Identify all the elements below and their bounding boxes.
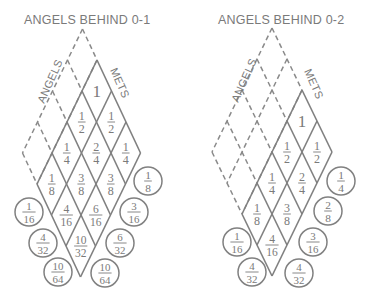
numerator: 1 [234,230,239,242]
mets-axis-label: METS [302,67,326,101]
lattice-cell: 18 [253,201,261,228]
numerator: 10 [75,234,87,246]
denominator: 4 [299,183,305,197]
denominator: 64 [53,273,64,285]
numerator: 4 [40,231,46,243]
outcome-circle: 116 [223,228,251,256]
lattice-line [83,29,98,60]
lattice-line [38,122,53,153]
denominator: 8 [78,184,84,198]
denominator: 8 [145,182,151,194]
denominator: 4 [123,153,129,167]
denominator: 4 [93,153,99,167]
numerator: 3 [78,171,84,185]
lattice-line [23,153,38,184]
denominator: 32 [38,244,49,256]
lattice-line [272,28,302,90]
numerator: 2 [93,140,99,154]
numerator: 3 [108,171,114,185]
numerator: 2 [299,170,305,184]
outcome-circle: 316 [299,228,327,256]
outcome-circle: 632 [106,229,134,257]
outcome-circle: 18 [134,167,162,195]
diagram-title: ANGELS BEHIND 0-1 [24,13,150,27]
outcome-circle: 1064 [44,258,72,286]
lattice-cell: 616 [89,203,102,228]
angels-axis-label: ANGELS [229,57,259,104]
denominator: 2 [108,122,114,136]
diagram-title: ANGELS BEHIND 0-2 [218,13,344,27]
numerator: 1 [64,140,70,154]
diagram-left: ANGELS BEHIND 0-1ANGELSMETS1121214241418… [15,13,162,287]
probability-diagrams: ANGELS BEHIND 0-1ANGELSMETS1121214241418… [0,0,371,304]
denominator: 32 [75,247,87,259]
lattice-cell: 38 [107,171,115,198]
numerator: 10 [53,260,64,272]
lattice-cell: 14 [268,170,276,197]
denominator: 2 [284,152,290,166]
numerator: 1 [269,170,275,184]
numerator: 1 [284,139,290,153]
numerator: 1 [108,109,114,123]
angels-axis-label: ANGELS [35,58,65,105]
denominator: 16 [308,243,319,255]
lattice-cell: 1 [298,112,307,131]
outcome-circle: 316 [120,198,148,226]
numerator: 4 [269,233,275,245]
denominator: 4 [64,153,70,167]
denominator: 8 [49,184,55,198]
lattice-cell: 1032 [74,234,87,259]
numerator: 1 [145,169,151,181]
lattice-cell: 12 [78,109,86,136]
denominator: 16 [232,243,243,255]
numerator: 6 [93,203,99,215]
numerator: 1 [123,140,129,154]
numerator: 1 [314,139,320,153]
numerator: 1 [26,200,31,212]
denominator: 4 [338,182,344,194]
denominator: 32 [115,244,126,256]
numerator: 2 [325,199,331,211]
diagram-right: ANGELS BEHIND 0-2ANGELSMETS1121214241838… [212,13,355,287]
denominator: 32 [247,273,258,285]
denominator: 8 [284,214,290,228]
denominator: 64 [100,274,111,286]
lattice-cell: 24 [298,170,306,197]
numerator: 4 [296,261,302,273]
numerator: 10 [100,261,111,273]
numerator: 3 [310,230,316,242]
outcome-circle: 28 [314,197,342,225]
cell-value: 1 [93,82,102,101]
numerator: 3 [131,200,137,212]
lattice-cell: 416 [60,203,73,228]
outcome-circle: 432 [29,229,57,257]
denominator: 16 [61,216,73,228]
lattice-cell: 12 [313,139,321,166]
lattice-cell: 1 [93,82,102,101]
denominator: 16 [24,213,35,225]
denominator: 8 [254,214,260,228]
outcome-circle: 1064 [91,259,119,287]
numerator: 6 [117,231,123,243]
outcome-circle: 116 [15,198,43,226]
lattice-cell: 12 [107,109,115,136]
outcome-circle: 432 [285,259,313,287]
numerator: 1 [49,171,55,185]
lattice-line [53,91,68,122]
numerator: 1 [338,169,344,181]
denominator: 2 [79,122,85,136]
lattice-cell: 18 [48,171,56,198]
cell-value: 1 [298,112,307,131]
denominator: 16 [266,246,278,258]
denominator: 4 [269,183,275,197]
numerator: 1 [254,201,260,215]
denominator: 16 [90,216,102,228]
lattice-cell: 14 [122,140,130,167]
lattice-cell: 14 [63,140,71,167]
lattice-line [68,60,83,91]
lattice-cell: 38 [283,201,291,228]
mets-axis-label: METS [108,66,132,100]
numerator: 3 [284,201,290,215]
denominator: 16 [129,213,140,225]
outcome-circle: 432 [238,258,266,286]
